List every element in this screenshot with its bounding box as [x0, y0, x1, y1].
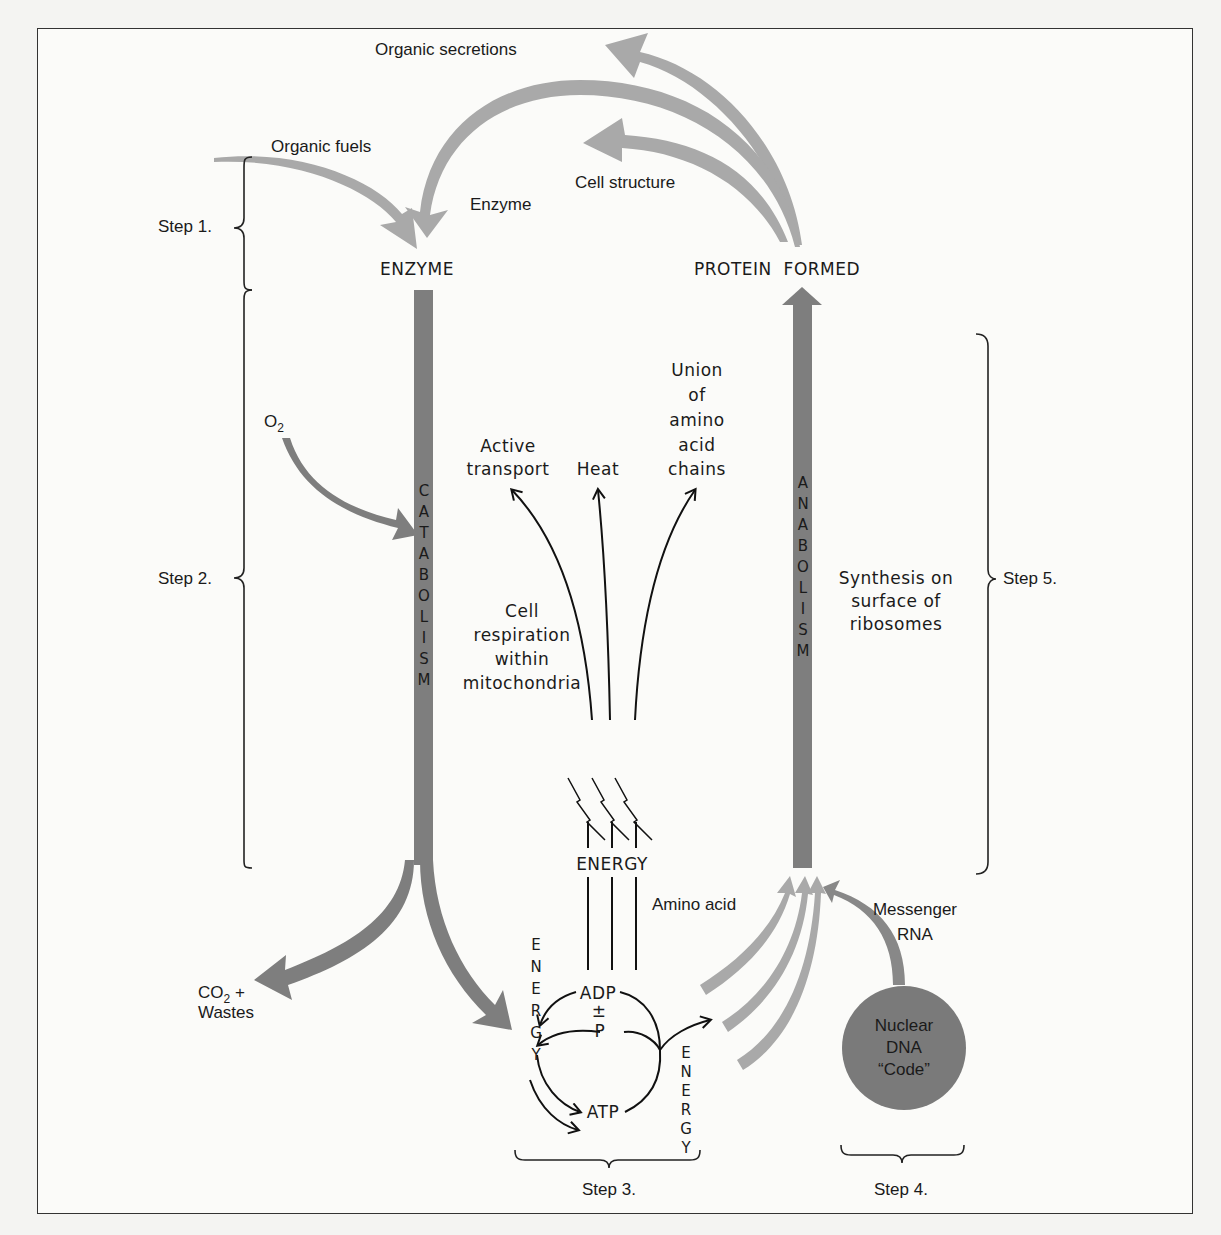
vertical-letter: M — [418, 671, 431, 689]
vertical-letter: Y — [680, 1139, 691, 1157]
union-amino-acid-label: Union of amino acid chains — [668, 360, 726, 479]
vertical-letter: A — [798, 516, 809, 534]
vertical-letter: S — [419, 650, 429, 668]
wastes-label: Wastes — [198, 1003, 254, 1022]
enzyme-return-label: Enzyme — [470, 195, 531, 214]
step4-brace — [841, 1145, 964, 1163]
vertical-letter: G — [530, 1024, 542, 1042]
cell-structure-label: Cell structure — [575, 173, 675, 192]
heat-label: Heat — [577, 459, 619, 479]
enzyme-node-label: ENZYME — [380, 259, 454, 279]
vertical-letter: N — [797, 495, 808, 513]
catabolism-bar — [254, 290, 512, 1030]
protein-formed-label: PROTEIN FORMED — [694, 259, 860, 279]
svg-text:surface of: surface of — [851, 591, 941, 611]
plus-minus-label: ± — [592, 1001, 607, 1021]
step5-label: Step 5. — [1003, 569, 1057, 588]
step4-label: Step 4. — [874, 1180, 928, 1199]
anabolism-bar — [782, 287, 822, 868]
energy-right-vertical: ENERGY — [680, 1044, 692, 1157]
vertical-letter: C — [419, 482, 429, 500]
vertical-letter: A — [419, 545, 430, 563]
organic-fuels-label: Organic fuels — [271, 137, 371, 156]
enzyme-return-arrow — [405, 80, 800, 247]
step3-brace — [515, 1150, 700, 1168]
organic-secretions-label: Organic secretions — [375, 40, 517, 59]
vertical-letter: I — [801, 600, 805, 618]
svg-text:Active: Active — [480, 436, 536, 456]
vertical-letter: R — [531, 1002, 541, 1020]
o2-arrow — [282, 438, 418, 540]
svg-text:Nuclear: Nuclear — [875, 1016, 934, 1035]
vertical-letter: G — [680, 1120, 692, 1138]
active-transport-label: Active transport — [466, 436, 549, 479]
energy-label: ENERGY — [576, 854, 648, 874]
vertical-letter: B — [798, 537, 808, 555]
svg-text:RNA: RNA — [897, 925, 934, 944]
vertical-letter: B — [419, 566, 429, 584]
vertical-letter: N — [680, 1063, 691, 1081]
lightning-icons — [568, 778, 652, 840]
vertical-letter: L — [799, 579, 808, 597]
svg-text:amino: amino — [669, 410, 724, 430]
step1-brace — [234, 157, 252, 290]
vertical-letter: Y — [530, 1046, 541, 1064]
cell-respiration-label: Cell respiration within mitochondria — [463, 601, 582, 693]
svg-text:within: within — [495, 649, 550, 669]
o2-label: O2 — [264, 412, 284, 435]
messenger-rna-arrow — [823, 880, 905, 985]
svg-text:Synthesis on: Synthesis on — [839, 568, 954, 588]
svg-text:of: of — [688, 385, 706, 405]
vertical-letter: I — [422, 629, 426, 647]
vertical-letter: E — [531, 980, 540, 998]
vertical-letter: A — [798, 474, 809, 492]
vertical-letter: E — [681, 1082, 690, 1100]
vertical-letter: O — [418, 587, 430, 605]
vertical-letter: R — [681, 1101, 691, 1119]
step2-brace — [234, 290, 252, 868]
step1-label: Step 1. — [158, 217, 212, 236]
phosphate-label: P — [595, 1021, 606, 1041]
svg-text:Union: Union — [671, 360, 723, 380]
synthesis-ribosomes-label: Synthesis on surface of ribosomes — [839, 568, 954, 634]
step5-brace — [976, 334, 996, 874]
vertical-letter: E — [531, 936, 540, 954]
step3-label: Step 3. — [582, 1180, 636, 1199]
svg-text:transport: transport — [466, 459, 549, 479]
energy-lines — [588, 822, 636, 970]
vertical-letter: A — [419, 503, 430, 521]
vertical-letter: O — [797, 558, 809, 576]
vertical-letter: S — [798, 621, 808, 639]
anabolism-letters: ANABOLISM — [797, 474, 810, 660]
svg-text:ribosomes: ribosomes — [850, 614, 943, 634]
vertical-letter: N — [530, 958, 541, 976]
vertical-letter: E — [681, 1044, 690, 1062]
svg-text:chains: chains — [668, 459, 726, 479]
energy-left-vertical: ENERGY — [530, 936, 542, 1064]
vertical-letter: L — [420, 608, 429, 626]
atp-label: ATP — [587, 1102, 619, 1122]
metabolism-diagram: CATABOLISM ANABOLISM — [0, 0, 1221, 1235]
step2-label: Step 2. — [158, 569, 212, 588]
adp-label: ADP — [580, 983, 616, 1003]
vertical-letter: M — [797, 642, 810, 660]
svg-text:Messenger: Messenger — [873, 900, 957, 919]
svg-text:acid: acid — [678, 435, 715, 455]
vertical-letter: T — [418, 524, 429, 542]
amino-acid-label: Amino acid — [652, 895, 736, 914]
svg-text:DNA: DNA — [886, 1038, 923, 1057]
svg-text:“Code”: “Code” — [878, 1060, 930, 1079]
svg-text:respiration: respiration — [474, 625, 571, 645]
svg-text:Cell: Cell — [505, 601, 539, 621]
svg-text:mitochondria: mitochondria — [463, 673, 582, 693]
